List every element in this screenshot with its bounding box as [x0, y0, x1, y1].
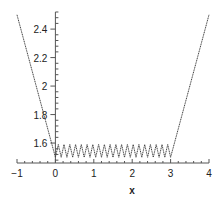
- chart: −1012341.61.822.22.4 x: [0, 0, 222, 199]
- x-tick-label: 0: [53, 168, 59, 179]
- y-tick-label: 2: [42, 81, 48, 92]
- tick-labels: −1012341.61.822.22.4: [11, 24, 212, 179]
- x-axis-label: x: [129, 185, 135, 196]
- x-tick-label: 2: [129, 168, 135, 179]
- y-tick-label: 2.4: [33, 24, 47, 35]
- y-tick-label: 1.6: [33, 138, 47, 149]
- x-tick-label: 1: [91, 168, 97, 179]
- x-tick-label: 3: [168, 168, 174, 179]
- y-tick-label: 1.8: [33, 110, 47, 121]
- x-tick-label: −1: [11, 168, 23, 179]
- y-tick-label: 2.2: [33, 53, 47, 64]
- x-tick-label: 4: [206, 168, 212, 179]
